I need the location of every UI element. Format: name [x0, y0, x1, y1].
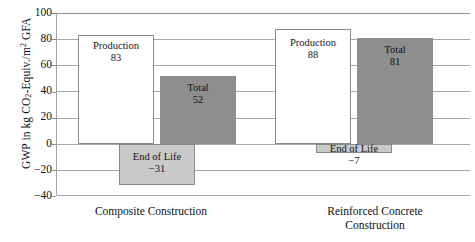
y-tick-mark-minus-40	[52, 196, 56, 197]
bar-right-production-name: Production	[290, 37, 336, 48]
bar-left-production-name: Production	[93, 40, 139, 51]
bar-right-total-name: Total	[384, 44, 405, 55]
plot-area: Production 83 End of Life −31 Total 52 P…	[56, 13, 470, 196]
y-tick-label-100: 100	[18, 7, 52, 19]
bar-right-production-value: 88	[275, 49, 351, 61]
y-tick-label-0: 0	[18, 138, 52, 150]
bar-left-end-of-life-label: End of Life −31	[119, 151, 195, 175]
bar-right-end-of-life-name: End of Life	[330, 143, 378, 154]
bar-right-total-value: 81	[357, 56, 433, 68]
y-tick-label-minus-40: −40	[18, 190, 52, 202]
bar-right-end-of-life-value: −7	[316, 155, 392, 167]
gridline-100	[56, 13, 470, 14]
bar-left-end-of-life-name: End of Life	[133, 151, 181, 162]
bar-left-end-of-life-value: −31	[119, 163, 195, 175]
y-tick-label-80: 80	[18, 33, 52, 45]
y-tick-label-20: 20	[18, 111, 52, 123]
bar-right-total-label: Total 81	[357, 44, 433, 68]
gridline-minus-40	[56, 195, 470, 196]
bar-chart: GWP in kg CO2-Equiv./m2 GFA 100 80 60 40…	[0, 0, 475, 242]
category-label-reinforced-concrete-construction: Reinforced Concrete Construction	[280, 205, 470, 232]
y-tick-label-60: 60	[18, 59, 52, 71]
category-label-reinforced-line-1: Reinforced Concrete	[327, 205, 422, 217]
bar-left-total-label: Total 52	[160, 82, 236, 106]
category-label-composite-construction: Composite Construction	[56, 205, 246, 219]
y-tick-label-40: 40	[18, 85, 52, 97]
bar-right-end-of-life-label: End of Life −7	[316, 143, 392, 167]
category-label-reinforced-line-2: Construction	[345, 219, 404, 231]
bar-left-total-value: 52	[160, 94, 236, 106]
category-label-composite-line-1: Composite Construction	[95, 205, 207, 217]
y-axis-tick-labels: 100 80 60 40 20 0 −20 −40	[14, 0, 52, 242]
bar-right-production-label: Production 88	[275, 37, 351, 61]
y-tick-label-minus-20: −20	[18, 164, 52, 176]
bar-left-production-label: Production 83	[78, 40, 154, 64]
bar-left-production-value: 83	[78, 52, 154, 64]
y-axis-line	[56, 13, 57, 196]
bar-left-total-name: Total	[187, 82, 208, 93]
